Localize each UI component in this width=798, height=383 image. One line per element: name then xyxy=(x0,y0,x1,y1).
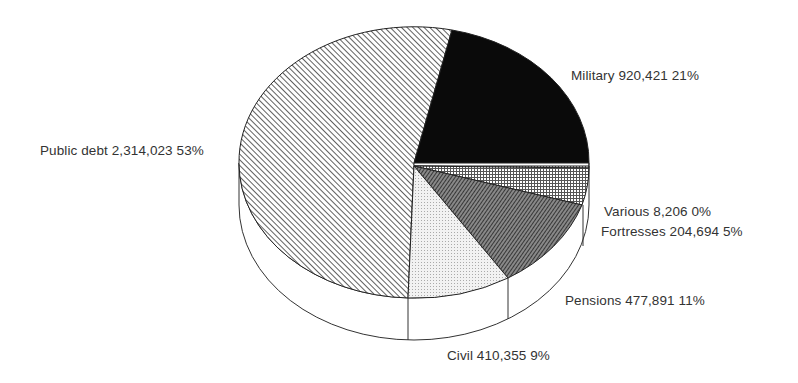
pie-top xyxy=(239,27,589,298)
pie-chart xyxy=(0,0,798,383)
label-pensions: Pensions 477,891 11% xyxy=(565,293,705,308)
label-public-debt: Public debt 2,314,023 53% xyxy=(40,143,204,158)
label-civil: Civil 410,355 9% xyxy=(447,348,550,363)
label-military: Military 920,421 21% xyxy=(571,68,699,83)
label-various: Various 8,206 0% xyxy=(604,204,711,219)
label-fortresses: Fortresses 204,694 5% xyxy=(601,224,743,239)
